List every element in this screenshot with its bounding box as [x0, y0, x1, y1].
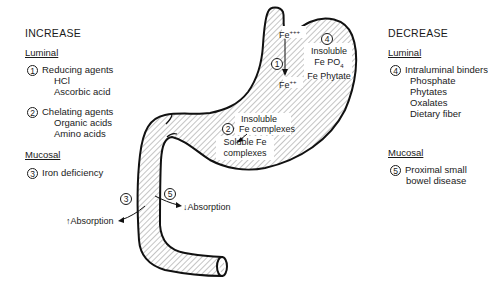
fe-phytate-label: Fe Phytate [305, 71, 353, 82]
increase-item-2-sub-1: Organic acids [54, 117, 112, 128]
decrease-mucosal-label: Mucosal [388, 147, 423, 158]
fe-po-text: Fe PO [314, 57, 340, 67]
increase-item-1-sub-2: Ascorbic acid [54, 86, 111, 97]
marker-3-icon: 3 [27, 168, 38, 179]
line: Fe complexes [239, 124, 295, 134]
increase-luminal-label: Luminal [25, 47, 58, 58]
increase-item-1: 1Reducing agents [27, 64, 113, 76]
increase-heading: INCREASE [25, 28, 81, 39]
ferrous-iron-label: Fe++ [279, 77, 297, 91]
line: Soluble Fe [216, 137, 274, 148]
line: complexes [216, 148, 274, 159]
decrease-item-4-sub-3: Oxalates [410, 97, 448, 108]
charge-superscript: ++ [290, 79, 297, 85]
insoluble-label: Insoluble [305, 46, 353, 57]
absorption-text: Absorption [71, 216, 114, 226]
increase-mucosal-label: Mucosal [25, 149, 60, 160]
marker-5-icon: 5 [390, 165, 401, 176]
marker-1-icon: 1 [27, 65, 38, 76]
stomach-marker-1-icon: 1 [271, 58, 283, 70]
duodenum-marker-3-icon: 3 [120, 193, 132, 205]
charge-superscript: +++ [290, 29, 301, 35]
item-title: Proximal small [405, 164, 467, 175]
fe-text: Fe [279, 80, 290, 90]
item-title: Intraluminal binders [405, 64, 488, 75]
decrease-item-5-line-2: bowel disease [406, 175, 466, 186]
decrease-luminal-label: Luminal [388, 47, 421, 58]
insoluble-complexes-label: Insoluble Fe complexes [239, 114, 295, 134]
stomach-marker-2-icon: 2 [222, 123, 234, 135]
decrease-heading: DECREASE [388, 28, 448, 39]
item-title: Chelating agents [42, 106, 113, 117]
decrease-item-4-sub-2: Phytates [410, 86, 447, 97]
item-title: Iron deficiency [42, 167, 103, 178]
decrease-item-4-sub-4: Dietary fiber [410, 108, 461, 119]
absorption-text: Absorption [188, 202, 231, 212]
ferric-iron-label: Fe+++ [279, 27, 300, 41]
fe-text: Fe [279, 30, 290, 40]
fe-po4-label: Fe PO4 [305, 57, 353, 71]
stomach-marker-4-icon: 4 [321, 33, 333, 45]
increased-absorption-label: ↑Absorption [66, 216, 114, 227]
decrease-item-4-sub-1: Phosphate [410, 75, 455, 86]
decreased-absorption-label: ↓Absorption [183, 202, 231, 213]
increase-item-1-sub-1: HCl [54, 75, 70, 86]
insoluble-fe-compounds: Insoluble Fe PO4 Fe Phytate [305, 46, 353, 81]
duodenum-marker-5-icon: 5 [164, 188, 176, 200]
subscript: 4 [340, 62, 343, 68]
item-title: Reducing agents [42, 64, 113, 75]
soluble-complexes-label: Soluble Fe complexes [216, 137, 274, 158]
marker-2-icon: 2 [27, 107, 38, 118]
increase-item-3: 3Iron deficiency [27, 167, 103, 179]
marker-4-icon: 4 [390, 65, 401, 76]
line: Insoluble [239, 114, 295, 124]
increase-item-2-sub-2: Amino acids [54, 128, 106, 139]
